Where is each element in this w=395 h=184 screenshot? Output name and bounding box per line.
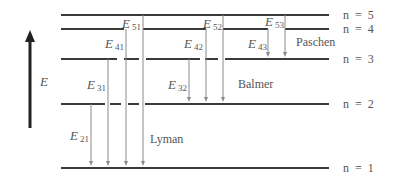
transition-label: E42 (183, 36, 203, 52)
transition-label: E43 (247, 36, 267, 52)
level-label: n = 5 (343, 8, 374, 22)
energy-level-n5: n = 5 (61, 8, 374, 22)
series-label-balmer: Balmer (238, 77, 273, 91)
transition-e21: E21 (69, 104, 93, 166)
series-label-paschen: Paschen (296, 35, 335, 49)
transition-label: E51 (121, 16, 141, 32)
transition-label: E53 (264, 14, 284, 30)
transition-e53: E53 (264, 14, 287, 57)
arrow-down-icon (283, 52, 287, 57)
energy-level-diagram: E n = 5n = 4n = 3n = 2n = 1 E21E31E41E51… (0, 0, 395, 184)
transition-label: E52 (202, 16, 222, 32)
transition-label: E41 (104, 36, 124, 52)
transition-e51: E51 (121, 15, 145, 166)
transition-e43: E43 (247, 29, 270, 57)
transition-e32: E32 (167, 59, 191, 102)
arrow-down-icon (89, 161, 93, 166)
energy-axis: E (25, 30, 48, 128)
arrow-down-icon (106, 161, 110, 166)
level-label: n = 3 (343, 52, 374, 66)
level-label: n = 1 (343, 161, 374, 175)
arrow-down-icon (204, 97, 208, 102)
energy-axis-label: E (39, 74, 48, 89)
arrow-down-icon (221, 97, 225, 102)
arrow-up-icon (25, 30, 35, 42)
transition-label: E31 (86, 77, 106, 93)
arrow-down-icon (187, 97, 191, 102)
arrow-down-icon (124, 161, 128, 166)
arrow-down-icon (266, 52, 270, 57)
transition-label: E21 (69, 128, 89, 144)
level-label: n = 4 (343, 22, 374, 36)
series-label-lyman: Lyman (150, 132, 183, 146)
transition-label: E32 (167, 77, 187, 93)
level-label: n = 2 (343, 97, 374, 111)
transition-e31: E31 (86, 59, 110, 166)
arrow-down-icon (141, 161, 145, 166)
